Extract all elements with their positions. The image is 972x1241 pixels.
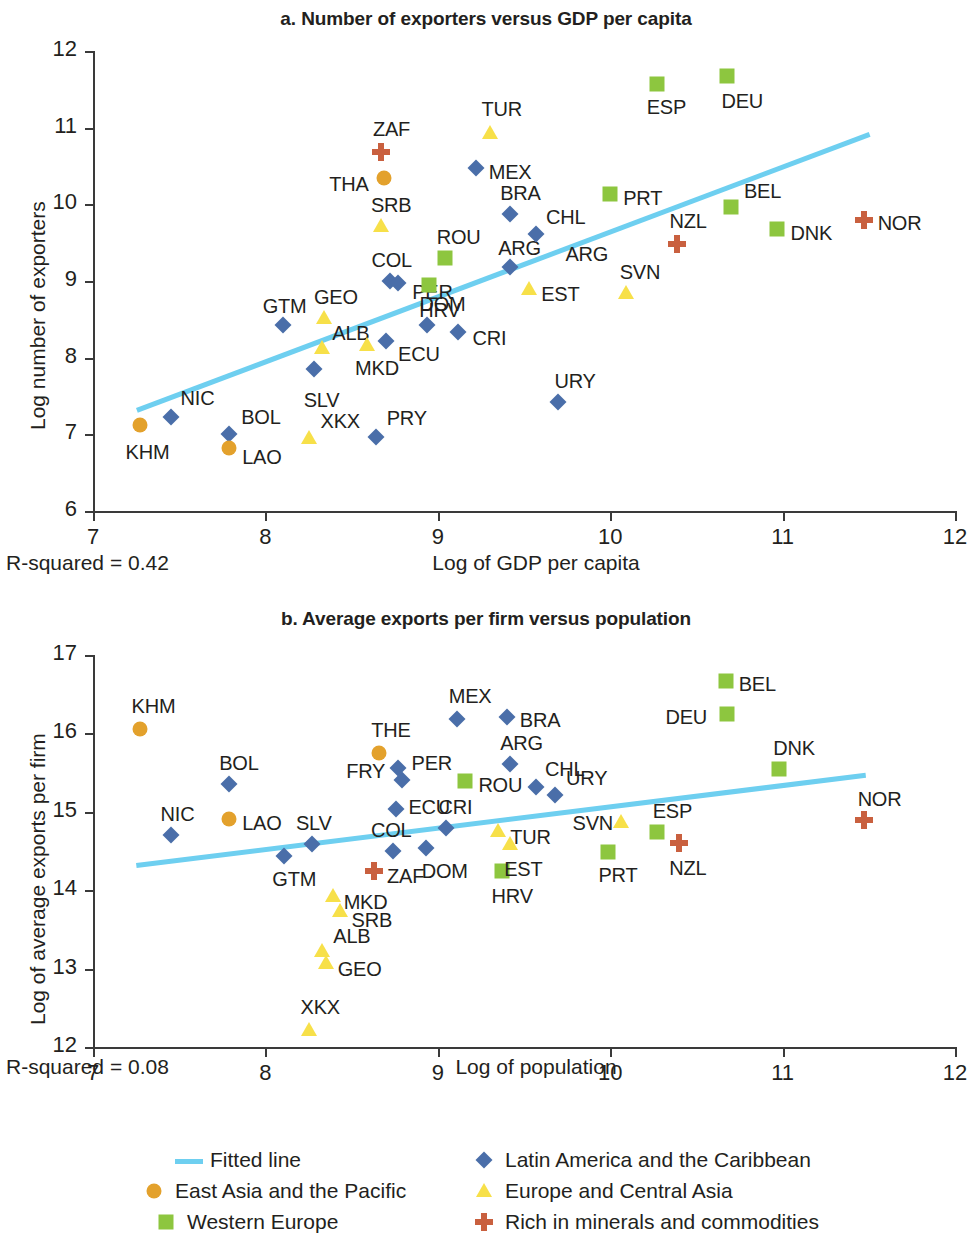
data-point-marker <box>132 418 147 433</box>
data-point-marker <box>613 814 629 828</box>
data-point-marker <box>450 324 467 341</box>
y-axis-tick <box>85 434 94 436</box>
data-point-label: COL <box>371 819 412 842</box>
data-point-label: CRI <box>472 327 506 350</box>
data-point-marker <box>372 746 387 761</box>
legend-item[interactable]: Western Europe <box>152 1210 338 1234</box>
y-axis-tick <box>85 812 94 814</box>
data-point-marker <box>274 316 291 333</box>
data-point-label: EST <box>541 283 579 306</box>
fitted-line-swatch-icon <box>175 1159 203 1164</box>
diamond-marker-icon <box>470 1149 498 1171</box>
data-point-label: BRA <box>500 182 541 205</box>
data-point-label: ESP <box>653 800 692 823</box>
y-axis-tick <box>85 204 94 206</box>
x-axis-tick-label: 7 <box>68 524 118 550</box>
x-axis-tick <box>265 511 267 521</box>
data-point-marker <box>723 199 738 214</box>
panel-b-average-exports: b. Average exports per firm versus popul… <box>0 600 972 1140</box>
legend-item[interactable]: East Asia and the Pacific <box>140 1179 406 1203</box>
data-point-marker <box>301 430 317 444</box>
legend-item[interactable]: Fitted line <box>175 1148 301 1172</box>
data-point-label: SRB <box>352 909 393 932</box>
x-axis-tick <box>93 511 95 521</box>
data-point-marker <box>770 221 785 236</box>
panel-a-title: a. Number of exporters versus GDP per ca… <box>0 8 972 30</box>
chart-legend: Fitted lineLatin America and the Caribbe… <box>0 1148 972 1241</box>
data-point-label: ARG <box>500 732 543 755</box>
data-point-label: PRT <box>623 187 662 210</box>
data-point-marker <box>318 955 334 969</box>
x-axis-tick-label: 10 <box>585 1060 635 1086</box>
y-axis-tick <box>85 128 94 130</box>
x-axis-tick-label: 8 <box>240 524 290 550</box>
data-point-marker <box>303 835 320 852</box>
data-point-marker <box>448 711 465 728</box>
data-point-label: PRT <box>598 864 637 887</box>
x-axis-tick-label: 12 <box>930 524 972 550</box>
y-axis-tick-label: 14 <box>37 875 77 901</box>
x-axis-tick <box>93 1047 95 1057</box>
panel-b-plot-area: 171615141312789101112KHMNICBOLLAOGTMSLVX… <box>93 655 955 1047</box>
legend-item[interactable]: Europe and Central Asia <box>470 1179 733 1203</box>
data-point-label: CHL <box>546 206 585 229</box>
data-point-marker <box>417 839 434 856</box>
legend-item[interactable]: Latin America and the Caribbean <box>470 1148 811 1172</box>
legend-item-label: Rich in minerals and commodities <box>505 1210 819 1234</box>
data-point-marker <box>498 708 515 725</box>
data-point-label: ROU <box>437 226 481 249</box>
data-point-marker <box>437 251 452 266</box>
y-axis-tick-label: 16 <box>37 718 77 744</box>
data-point-label: URY <box>554 370 595 393</box>
data-point-marker <box>528 778 545 795</box>
data-point-label: SVN <box>620 261 661 284</box>
panel-a-x-axis-title: Log of GDP per capita <box>256 551 816 575</box>
data-point-marker <box>373 218 389 232</box>
data-point-label: KHM <box>132 695 176 718</box>
data-point-label: GTM <box>272 868 316 891</box>
x-axis-tick-label: 12 <box>930 1060 972 1086</box>
panel-b-title: b. Average exports per firm versus popul… <box>0 608 972 630</box>
y-axis-tick-label: 6 <box>37 496 77 522</box>
data-point-label: BOL <box>219 752 258 775</box>
legend-item-label: Latin America and the Caribbean <box>505 1148 811 1172</box>
data-point-marker <box>325 888 341 902</box>
data-point-label: NOR <box>858 788 902 811</box>
x-axis-tick <box>783 1047 785 1057</box>
data-point-marker <box>314 340 330 354</box>
data-point-marker <box>718 673 733 688</box>
y-axis-tick-label: 17 <box>37 640 77 666</box>
y-axis-tick <box>85 733 94 735</box>
x-axis-tick-label: 10 <box>585 524 635 550</box>
data-point-marker <box>222 441 237 456</box>
legend-item[interactable]: Rich in minerals and commodities <box>470 1210 819 1234</box>
data-point-marker <box>855 811 873 829</box>
data-point-marker <box>547 787 564 804</box>
x-axis-tick-label: 7 <box>68 1060 118 1086</box>
data-point-marker <box>720 706 735 721</box>
line-marker-icon <box>175 1149 203 1171</box>
square-marker-icon <box>152 1211 180 1233</box>
data-point-marker <box>720 68 735 83</box>
data-point-label: ROU <box>478 774 522 797</box>
data-point-label: KHM <box>126 441 170 464</box>
data-point-marker <box>482 125 498 139</box>
panel-a-rsquared: R-squared = 0.42 <box>6 551 169 575</box>
data-point-label: DNK <box>773 737 815 760</box>
data-point-marker <box>502 836 518 850</box>
panel-b-x-axis-title: Log of population <box>256 1055 816 1079</box>
x-axis-tick-label: 9 <box>413 1060 463 1086</box>
data-point-label: THA <box>329 173 368 196</box>
data-point-marker <box>332 903 348 917</box>
triangle-marker-icon <box>470 1180 498 1202</box>
data-point-label: HRV <box>419 299 460 322</box>
data-point-marker <box>649 76 664 91</box>
y-axis-tick-label: 12 <box>37 1032 77 1058</box>
data-point-label: SVN <box>573 812 614 835</box>
data-point-marker <box>855 211 873 229</box>
panel-a-y-axis-title: Log number of exporters <box>26 201 50 430</box>
data-point-label: MKD <box>355 357 399 380</box>
y-axis-tick-label: 15 <box>37 797 77 823</box>
data-point-label: NIC <box>181 387 215 410</box>
x-axis-tick <box>955 1047 957 1057</box>
